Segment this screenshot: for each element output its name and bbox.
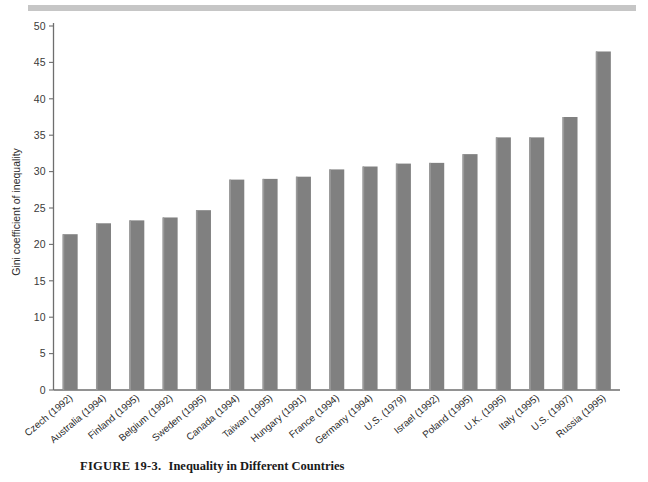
y-axis-tick-label: 15 xyxy=(34,275,46,287)
bar-rect xyxy=(229,180,244,390)
bar-rect xyxy=(129,220,144,390)
bar-highlight-edge xyxy=(263,179,265,390)
y-axis-tick-label: 50 xyxy=(34,20,46,32)
bar-rect xyxy=(263,179,278,390)
bar-highlight-edge xyxy=(296,177,298,390)
bar xyxy=(163,217,178,390)
bar-rect xyxy=(96,223,111,390)
bar xyxy=(296,177,311,390)
y-axis-tick-label: 40 xyxy=(34,93,46,105)
bar-highlight-edge xyxy=(463,154,465,390)
bar-highlight-edge xyxy=(329,169,331,390)
y-axis-tick-label: 5 xyxy=(40,347,46,359)
bar-chart: 05101520253035404550Gini coefficient of … xyxy=(0,0,648,482)
bar xyxy=(429,163,444,390)
bar xyxy=(496,137,511,390)
bar-rect xyxy=(296,177,311,390)
bar xyxy=(463,154,478,390)
bar xyxy=(529,137,544,390)
bar xyxy=(96,223,111,390)
bar-rect xyxy=(63,234,78,390)
y-axis-tick-label: 35 xyxy=(34,129,46,141)
bar xyxy=(596,51,611,390)
bar-highlight-edge xyxy=(96,223,98,390)
y-axis-tick-label: 30 xyxy=(34,165,46,177)
y-axis-tick-label: 10 xyxy=(34,311,46,323)
x-axis-category-label: Germany (1994) xyxy=(313,392,375,446)
bar xyxy=(263,179,278,390)
bar-highlight-edge xyxy=(563,117,565,390)
bar-rect xyxy=(429,163,444,390)
bar xyxy=(229,180,244,390)
bar-highlight-edge xyxy=(529,137,531,390)
bar-rect xyxy=(596,51,611,390)
bar-rect xyxy=(196,210,211,390)
bar xyxy=(329,169,344,390)
bar-rect xyxy=(363,167,378,390)
bar-highlight-edge xyxy=(396,164,398,390)
y-axis-tick-label: 25 xyxy=(34,202,46,214)
bar-rect xyxy=(396,164,411,390)
y-axis-tick-label: 45 xyxy=(34,56,46,68)
bar xyxy=(563,117,578,390)
bar-rect xyxy=(329,169,344,390)
bar-rect xyxy=(163,217,178,390)
bar-rect xyxy=(463,154,478,390)
bar-highlight-edge xyxy=(63,234,65,390)
bar-highlight-edge xyxy=(163,217,165,390)
bar xyxy=(129,220,144,390)
bar-highlight-edge xyxy=(429,163,431,390)
bar-highlight-edge xyxy=(196,210,198,390)
y-axis-title: Gini coefficient of inequality xyxy=(10,147,22,275)
bar xyxy=(363,167,378,390)
bar xyxy=(196,210,211,390)
bar-highlight-edge xyxy=(596,51,598,390)
figure-caption-label: FIGURE 19-3. xyxy=(80,459,161,473)
bar xyxy=(63,234,78,390)
bar-rect xyxy=(563,117,578,390)
figure-caption: FIGURE 19-3. Inequality in Different Cou… xyxy=(80,459,344,474)
y-axis-tick-label: 20 xyxy=(34,238,46,250)
bar-highlight-edge xyxy=(229,180,231,390)
bar-highlight-edge xyxy=(363,167,365,390)
figure-container: 05101520253035404550Gini coefficient of … xyxy=(0,0,648,482)
figure-caption-title: Inequality in Different Countries xyxy=(169,459,345,473)
bar xyxy=(396,164,411,390)
y-axis-tick-label: 0 xyxy=(40,384,46,396)
bar-rect xyxy=(529,137,544,390)
bar-rect xyxy=(496,137,511,390)
bar-highlight-edge xyxy=(129,220,131,390)
bar-highlight-edge xyxy=(496,137,498,390)
